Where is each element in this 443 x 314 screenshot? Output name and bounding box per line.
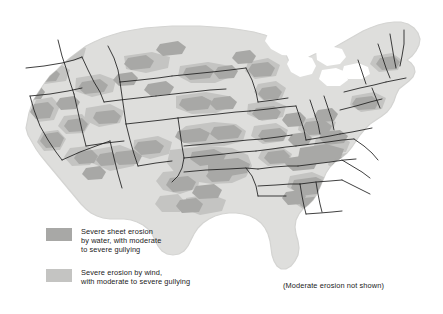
water-erosion-swatch	[46, 228, 72, 241]
moderate-erosion-note: (Moderate erosion not shown)	[283, 281, 384, 290]
legend-entry-water-erosion: Severe sheet erosion by water, with mode…	[46, 227, 216, 255]
map-figure: Severe sheet erosion by water, with mode…	[0, 0, 443, 314]
wind-erosion-swatch	[46, 269, 72, 282]
map-legend: Severe sheet erosion by water, with mode…	[46, 227, 216, 296]
legend-label-water-erosion: Severe sheet erosion by water, with mode…	[81, 227, 161, 255]
legend-entry-wind-erosion: Severe erosion by wind, with moderate to…	[46, 268, 216, 286]
legend-label-wind-erosion: Severe erosion by wind, with moderate to…	[81, 268, 190, 286]
